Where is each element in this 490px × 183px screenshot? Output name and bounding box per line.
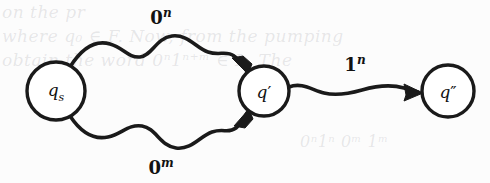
edge-label-top: 0n: [150, 6, 171, 28]
state-label-q-prime-base: q: [257, 82, 268, 102]
edge-label-bottom-symbol: 0: [148, 157, 161, 178]
edge-label-right-exponent: n: [357, 53, 366, 67]
edge-label-bottom: 0m: [148, 156, 173, 178]
edge-label-top-symbol: 0: [150, 7, 163, 28]
edge-bottom-0m: [70, 109, 253, 148]
state-label-q-dprime-base: q: [439, 82, 450, 102]
state-label-q-prime-mark: ′: [268, 82, 272, 102]
edge-top-0n: [70, 36, 252, 74]
state-label-q-prime: q′: [257, 82, 272, 102]
state-label-q-dprime-mark: ″: [450, 82, 456, 102]
state-diagram-svg: [0, 0, 490, 183]
edge-right-1n: [289, 84, 423, 101]
edge-right-path: [289, 85, 418, 94]
state-label-q-dprime: q″: [439, 82, 456, 102]
edge-top-path: [70, 36, 246, 70]
state-label-q-s: qs: [48, 80, 65, 103]
edge-label-right: 1n: [344, 53, 365, 75]
figure-canvas: on the pr where q₀ ∈ F. Now, from the pu…: [0, 0, 490, 183]
edge-label-bottom-exponent: m: [161, 156, 174, 170]
state-label-q-s-sub: s: [59, 91, 65, 104]
edge-label-top-exponent: n: [163, 6, 172, 20]
edge-bottom-path: [70, 113, 247, 148]
edge-right-arrowhead: [404, 84, 423, 101]
state-label-q-s-base: q: [48, 80, 59, 100]
edge-label-right-symbol: 1: [344, 54, 357, 75]
